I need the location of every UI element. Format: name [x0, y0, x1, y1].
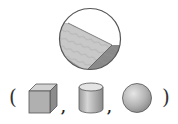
separator-comma: ,	[107, 100, 112, 114]
cube-icon	[27, 82, 59, 114]
magnified-wood-block	[58, 7, 122, 71]
cylinder-option	[77, 82, 105, 114]
wood-grain-icon	[58, 7, 122, 71]
cylinder-icon	[77, 82, 105, 114]
cube-option	[27, 82, 59, 114]
separator-comma: ,	[61, 100, 66, 114]
sphere-icon	[121, 82, 153, 114]
open-paren: (	[9, 87, 17, 107]
sphere-option	[121, 82, 153, 114]
close-paren: )	[162, 87, 170, 107]
